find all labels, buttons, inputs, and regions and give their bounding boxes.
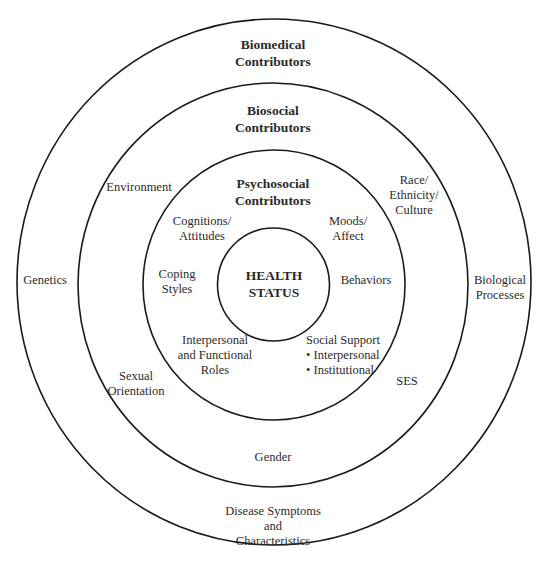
race-line-1: Race/	[389, 173, 438, 188]
moods-affect-label: Moods/ Affect	[329, 214, 367, 244]
race-ethnicity-culture-label: Race/ Ethnicity/ Culture	[389, 173, 438, 218]
coping-line-1: Coping	[159, 267, 196, 282]
sexual-orientation-label: Sexual Orientation	[108, 369, 165, 399]
disease-symptoms-line-2: and	[225, 519, 320, 534]
biomedical-title-line-2: Contributors	[235, 53, 311, 70]
interpersonal-functional-roles-label: Interpersonal and Functional Roles	[178, 333, 253, 378]
biosocial-title: Biosocial Contributors	[235, 102, 311, 136]
social-support-institutional: • Institutional	[306, 363, 380, 378]
disease-symptoms-label: Disease Symptoms and Characteristics	[225, 504, 320, 549]
ses-label: SES	[396, 374, 418, 389]
coping-styles-label: Coping Styles	[159, 267, 196, 297]
biomedical-title: Biomedical Contributors	[235, 36, 311, 70]
health-status-line-1: HEALTH	[246, 267, 303, 284]
interpersonal-roles-line-1: Interpersonal	[178, 333, 253, 348]
interpersonal-roles-line-3: Roles	[178, 363, 253, 378]
psychosocial-title-line-2: Contributors	[235, 192, 311, 209]
environment-label: Environment	[106, 180, 171, 195]
biosocial-title-line-1: Biosocial	[235, 102, 311, 119]
psychosocial-title-line-1: Psychosocial	[235, 175, 311, 192]
coping-line-2: Styles	[159, 282, 196, 297]
social-support-interpersonal: • Interpersonal	[306, 348, 380, 363]
health-status-line-2: STATUS	[246, 284, 303, 301]
sexual-orientation-line-1: Sexual	[108, 369, 165, 384]
disease-symptoms-line-1: Disease Symptoms	[225, 504, 320, 519]
biomedical-title-line-1: Biomedical	[235, 36, 311, 53]
psychosocial-title: Psychosocial Contributors	[235, 175, 311, 209]
moods-line-2: Affect	[329, 229, 367, 244]
cognitions-attitudes-label: Cognitions/ Attitudes	[173, 214, 231, 244]
interpersonal-roles-line-2: and Functional	[178, 348, 253, 363]
disease-symptoms-line-3: Characteristics	[225, 534, 320, 549]
race-line-3: Culture	[389, 203, 438, 218]
health-status-title: HEALTH STATUS	[246, 267, 303, 301]
race-line-2: Ethnicity/	[389, 188, 438, 203]
genetics-label: Genetics	[23, 273, 67, 288]
moods-line-1: Moods/	[329, 214, 367, 229]
cognitions-line-1: Cognitions/	[173, 214, 231, 229]
biological-processes-line-1: Biological	[474, 273, 526, 288]
social-support-title: Social Support	[306, 333, 380, 348]
biosocial-title-line-2: Contributors	[235, 119, 311, 136]
social-support-label: Social Support • Interpersonal • Institu…	[306, 333, 380, 378]
biological-processes-line-2: Processes	[474, 288, 526, 303]
gender-label: Gender	[255, 450, 292, 465]
biological-processes-label: Biological Processes	[474, 273, 526, 303]
cognitions-line-2: Attitudes	[173, 229, 231, 244]
sexual-orientation-line-2: Orientation	[108, 384, 165, 399]
behaviors-label: Behaviors	[341, 273, 392, 288]
